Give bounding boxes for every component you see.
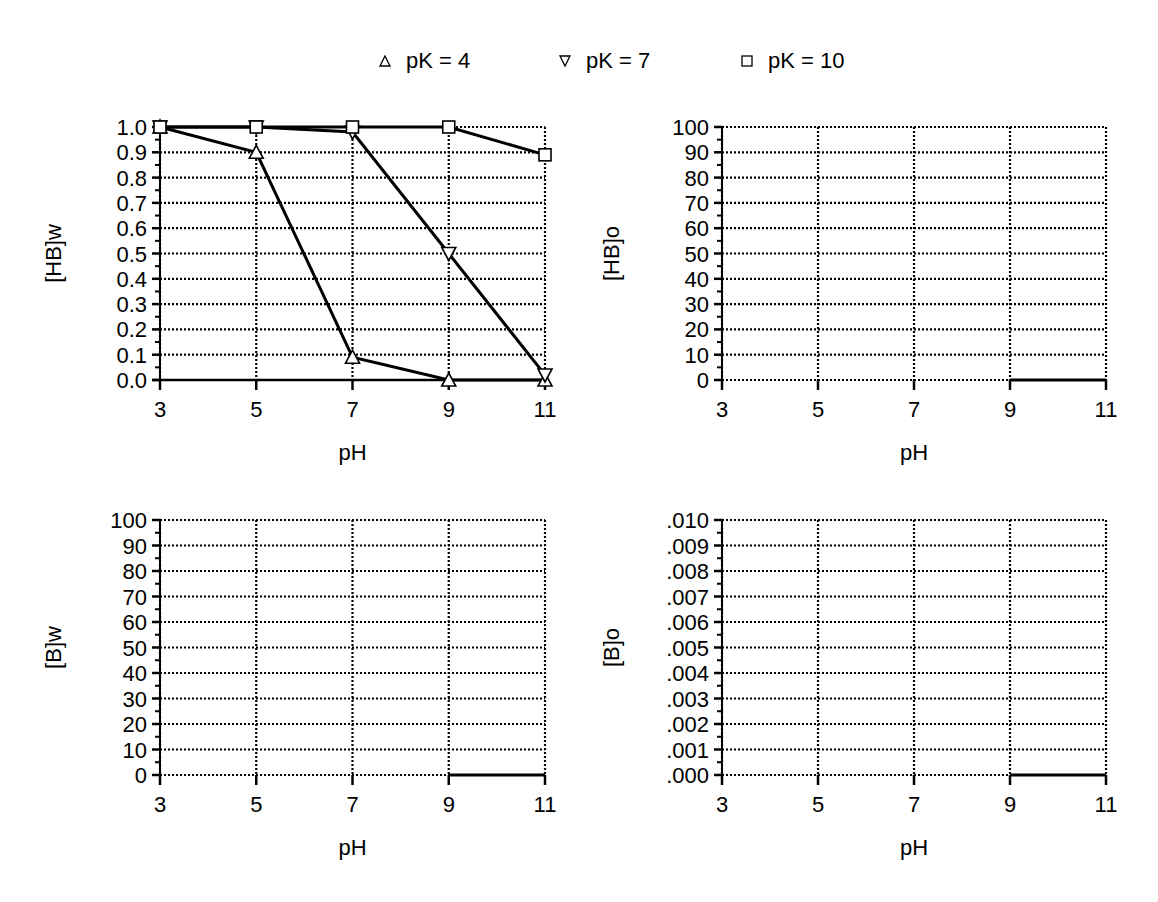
y-tick-label: .009 [666,534,709,559]
y-tick-label: 0.9 [116,140,147,165]
x-tick-label: 7 [908,397,920,422]
y-tick-label: 0.8 [116,166,147,191]
x-tick-label: 7 [346,792,358,817]
y-tick-label: 40 [685,267,709,292]
y-tick-label: 60 [685,216,709,241]
y-tick-label: .003 [666,687,709,712]
plot-hb-w: 0.00.10.20.30.40.50.60.70.80.91.0357911p… [41,115,556,465]
x-tick-label: 9 [443,397,455,422]
x-tick-label: 9 [1004,792,1016,817]
y-tick-label: 1.0 [116,115,147,140]
y-tick-label: 30 [123,687,147,712]
x-tick-label: 5 [250,397,262,422]
y-tick-label: 0.3 [116,292,147,317]
x-tick-label: 3 [716,397,728,422]
y-tick-label: 10 [123,738,147,763]
y-tick-label: 20 [123,712,147,737]
y-tick-label: 10 [685,343,709,368]
y-tick-label: .007 [666,585,709,610]
y-axis-label: [HB]o [599,226,624,281]
y-tick-label: 0 [697,368,709,393]
x-tick-label: 9 [443,792,455,817]
y-tick-label: 0.4 [116,267,147,292]
y-tick-label: .004 [666,661,709,686]
y-tick-label: 100 [110,508,147,533]
y-tick-label: 0.6 [116,216,147,241]
y-axis-label: [B]o [599,628,624,667]
triangle-up-marker [346,350,360,363]
square-marker [347,121,359,133]
plot-hb-o: 0102030405060708090100357911pH[HB]o [599,115,1117,465]
y-tick-label: 80 [685,166,709,191]
y-tick-label: .008 [666,559,709,584]
y-tick-label: 0 [135,763,147,788]
y-tick-label: 0.0 [116,368,147,393]
x-tick-label: 11 [534,792,557,817]
y-tick-label: .002 [666,712,709,737]
y-tick-label: 70 [685,191,709,216]
x-tick-label: 5 [812,792,824,817]
y-tick-label: 0.7 [116,191,147,216]
x-tick-label: 7 [908,792,920,817]
square-marker [154,121,166,133]
y-tick-label: 90 [685,140,709,165]
y-axis-label: [B]w [41,626,66,669]
x-tick-label: 3 [716,792,728,817]
y-tick-label: 40 [123,661,147,686]
y-tick-label: 80 [123,559,147,584]
plot-b-w: 0102030405060708090100357911pH[B]w [41,508,556,860]
y-tick-label: 0.5 [116,242,147,267]
x-tick-label: 7 [346,397,358,422]
y-tick-label: 70 [123,585,147,610]
square-marker [539,149,551,161]
x-tick-label: 5 [812,397,824,422]
x-axis-label: pH [900,835,928,860]
y-tick-label: 20 [685,317,709,342]
y-tick-label: .001 [666,738,709,763]
x-axis-label: pH [338,835,366,860]
y-tick-label: 30 [685,292,709,317]
x-axis-label: pH [338,440,366,465]
x-tick-label: 11 [534,397,557,422]
y-tick-label: 90 [123,534,147,559]
y-tick-label: .005 [666,636,709,661]
chart-panels: 0.00.10.20.30.40.50.60.70.80.91.0357911p… [0,0,1158,902]
y-tick-label: 0.1 [116,343,147,368]
x-tick-label: 3 [154,792,166,817]
plot-b-o: .000.001.002.003.004.005.006.007.008.009… [599,508,1117,860]
square-marker [443,121,455,133]
x-axis-label: pH [900,440,928,465]
y-tick-label: 100 [672,115,709,140]
square-marker [250,121,262,133]
y-tick-label: 50 [685,242,709,267]
x-tick-label: 5 [250,792,262,817]
y-tick-label: 50 [123,636,147,661]
y-tick-label: .010 [666,508,709,533]
x-tick-label: 9 [1004,397,1016,422]
y-axis-label: [HB]w [41,224,66,283]
x-tick-label: 11 [1095,792,1118,817]
y-tick-label: .000 [666,763,709,788]
x-tick-label: 11 [1095,397,1118,422]
y-tick-label: 0.2 [116,317,147,342]
x-tick-label: 3 [154,397,166,422]
y-tick-label: .006 [666,610,709,635]
y-tick-label: 60 [123,610,147,635]
